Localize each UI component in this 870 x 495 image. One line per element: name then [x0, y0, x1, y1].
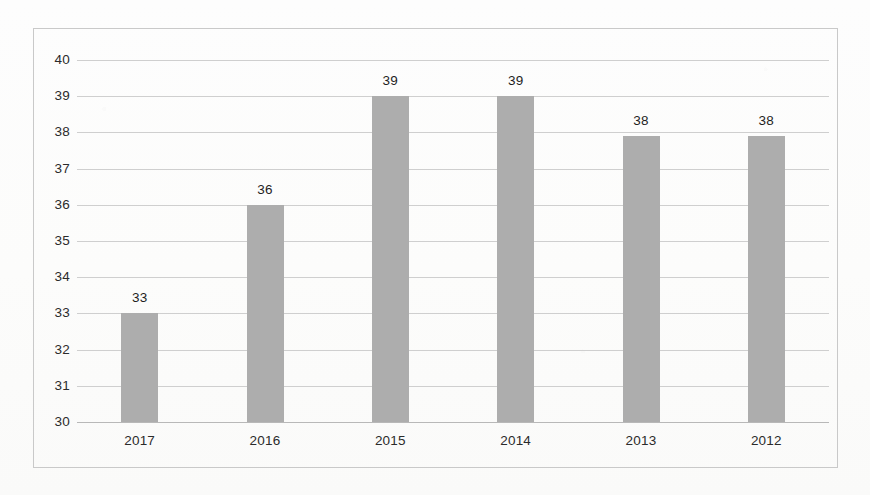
x-axis-tick-labels: 201720162015201420132012 — [77, 0, 829, 495]
bar-chart-screenshot: 4039383736353433323130 333639393838 2017… — [0, 0, 870, 495]
y-tick-label-31: 31 — [30, 379, 70, 393]
x-tick-label-2017: 2017 — [110, 434, 170, 448]
y-tick-label-30: 30 — [30, 415, 70, 429]
x-tick-label-2013: 2013 — [611, 434, 671, 448]
x-tick-label-2014: 2014 — [486, 434, 546, 448]
y-tick-label-40: 40 — [30, 53, 70, 67]
y-tick-label-35: 35 — [30, 234, 70, 248]
y-tick-label-32: 32 — [30, 343, 70, 357]
y-axis-tick-labels: 4039383736353433323130 — [30, 60, 70, 422]
y-tick-label-36: 36 — [30, 198, 70, 212]
y-tick-label-37: 37 — [30, 162, 70, 176]
x-tick-label-2016: 2016 — [235, 434, 295, 448]
y-tick-label-38: 38 — [30, 126, 70, 140]
x-tick-label-2012: 2012 — [736, 434, 796, 448]
y-tick-label-33: 33 — [30, 307, 70, 321]
y-tick-label-39: 39 — [30, 89, 70, 103]
y-tick-label-34: 34 — [30, 270, 70, 284]
x-tick-label-2015: 2015 — [360, 434, 420, 448]
